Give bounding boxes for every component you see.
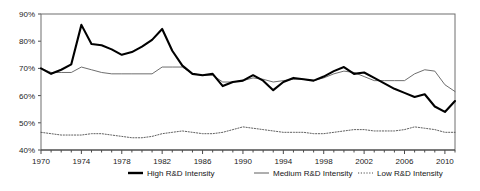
x-tick-label: 1990	[234, 157, 252, 166]
y-tick-label: 80%	[19, 37, 35, 46]
series-line-low-rd-intensity	[41, 127, 455, 138]
y-tick-label: 60%	[19, 92, 35, 101]
x-tick-label: 1978	[113, 157, 131, 166]
legend-label-low-rd-intensity: Low R&D Intensity	[377, 169, 443, 178]
y-tick-label: 50%	[19, 119, 35, 128]
x-tick-label: 1974	[72, 157, 90, 166]
series-line-high-rd-intensity	[41, 25, 455, 112]
x-tick-label: 1982	[153, 157, 171, 166]
x-tick-label: 1970	[32, 157, 50, 166]
x-tick-label: 2006	[396, 157, 414, 166]
x-axis-tick-marks	[41, 150, 455, 154]
x-tick-label: 2002	[355, 157, 373, 166]
chart-legend: High R&D Intensity Medium R&D Intensity …	[128, 169, 443, 178]
x-tick-label: 1998	[315, 157, 333, 166]
y-tick-label: 40%	[19, 146, 35, 155]
y-axis-tick-labels: 90%80%70%60%50%40%	[19, 10, 35, 155]
y-tick-label: 70%	[19, 64, 35, 73]
rd-intensity-line-chart: 90%80%70%60%50%40% 197019741978198219861…	[0, 0, 480, 191]
legend-label-medium-rd-intensity: Medium R&D Intensity	[273, 169, 353, 178]
y-tick-label: 90%	[19, 10, 35, 19]
x-tick-label: 1986	[194, 157, 212, 166]
x-tick-label: 2010	[436, 157, 454, 166]
chart-canvas: 90%80%70%60%50%40% 197019741978198219861…	[0, 0, 480, 191]
legend-label-high-rd-intensity: High R&D Intensity	[147, 169, 215, 178]
plot-area-frame	[41, 14, 455, 150]
x-tick-label: 1994	[274, 157, 292, 166]
x-axis-tick-labels: 1970197419781982198619901994199820022006…	[32, 157, 454, 166]
